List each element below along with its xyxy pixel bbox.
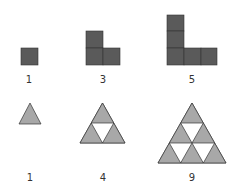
triangle-label-4: 4 <box>100 172 106 183</box>
triangle-figure-9 <box>158 103 226 163</box>
triangle-label-1: 1 <box>27 172 33 183</box>
square-figure-3 <box>86 31 120 65</box>
square-label-3: 3 <box>100 74 106 85</box>
pattern-diagram <box>0 0 240 192</box>
triangle-label-9: 9 <box>189 172 195 183</box>
square-label-5: 5 <box>189 74 195 85</box>
square-label-1: 1 <box>26 74 32 85</box>
triangle-figure-1 <box>19 103 41 124</box>
square-figure-1 <box>21 48 38 65</box>
square-figure-5 <box>167 15 217 65</box>
triangle-figure-4 <box>80 103 125 143</box>
